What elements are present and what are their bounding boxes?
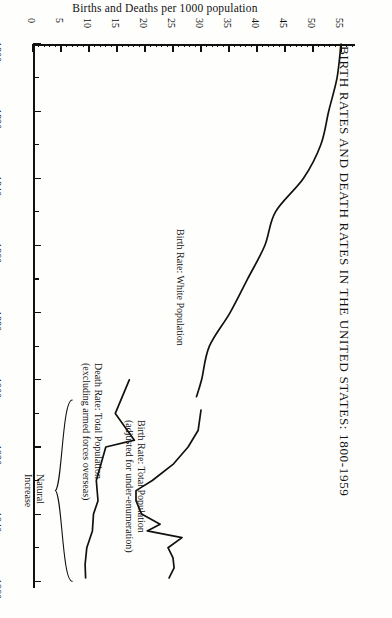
chart-page: Births and Deaths per 1000 population BI… <box>0 0 392 618</box>
death-rate-total-label: Death Rate: Total Population (excluding … <box>81 363 104 500</box>
rate-tick-label-5: 5 <box>54 18 65 23</box>
rate-tick-label-35: 35 <box>222 18 233 28</box>
natural-increase-label: Natural Increase <box>23 474 46 507</box>
birth-rate-total-label: Birth Rate: Total Population (adjusted f… <box>124 420 147 553</box>
year-tick-label-1920: 1920 <box>0 445 3 465</box>
rate-tick-label-55: 55 <box>334 18 345 28</box>
rate-tick-label-45: 45 <box>278 18 289 28</box>
rate-tick-label-30: 30 <box>194 18 205 28</box>
rate-tick-label-15: 15 <box>110 18 121 28</box>
rate-tick-label-20: 20 <box>138 18 149 28</box>
axis-title-rates: Births and Deaths per 1000 population <box>0 2 330 14</box>
rate-tick-label-40: 40 <box>250 18 261 28</box>
series-curves <box>33 44 355 588</box>
year-tick-label-1840: 1840 <box>0 176 3 196</box>
rate-tick-label-0: 0 <box>26 18 37 23</box>
rate-tick-label-25: 25 <box>166 18 177 28</box>
year-tick-label-1940: 1940 <box>0 512 3 532</box>
rate-tick-label-10: 10 <box>82 18 93 28</box>
year-tick-label-1860: 1860 <box>0 243 3 263</box>
year-tick-label-1960: 1960 <box>0 579 3 599</box>
year-tick-label-1800: 1800 <box>0 42 3 62</box>
year-tick-label-1820: 1820 <box>0 109 3 129</box>
natural-increase-brace <box>55 400 72 581</box>
plot-area: 0510152025303540455055 18001820184018601… <box>33 44 355 588</box>
year-tick-label-1880: 1880 <box>0 311 3 331</box>
rate-tick-label-50: 50 <box>306 18 317 28</box>
birth-rate-white-label: Birth Rate: White Population <box>175 229 187 346</box>
series-birth-rate-white <box>197 44 342 397</box>
year-tick-label-1900: 1900 <box>0 378 3 398</box>
